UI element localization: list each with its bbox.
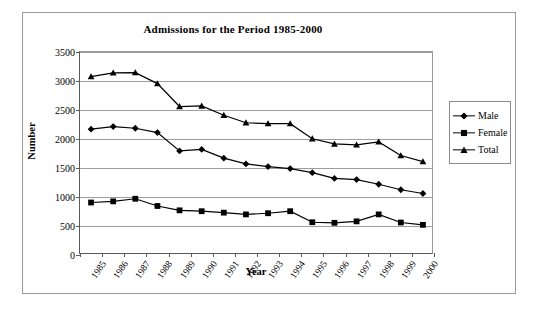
diamond-marker-icon bbox=[453, 110, 475, 122]
series-line bbox=[91, 199, 423, 225]
series-male bbox=[88, 123, 427, 197]
chart-title: Admissions for the Period 1985-2000 bbox=[23, 23, 443, 35]
legend-item-female[interactable]: Female bbox=[453, 124, 507, 141]
data-point bbox=[397, 152, 404, 158]
data-point bbox=[353, 176, 360, 183]
legend-label: Male bbox=[478, 110, 499, 121]
data-point bbox=[354, 218, 360, 224]
data-point bbox=[221, 210, 227, 216]
series-line bbox=[91, 73, 423, 162]
series-line bbox=[91, 127, 423, 194]
data-point bbox=[309, 135, 316, 141]
y-tick-label: 0 bbox=[70, 250, 75, 261]
square-marker-icon bbox=[453, 127, 475, 139]
data-point bbox=[88, 126, 95, 133]
data-point bbox=[375, 139, 382, 145]
triangle-marker-icon bbox=[453, 144, 475, 156]
data-point bbox=[243, 212, 249, 218]
legend-label: Total bbox=[478, 144, 498, 155]
data-point bbox=[287, 165, 294, 172]
y-tick-label: 1000 bbox=[55, 192, 75, 203]
data-point bbox=[287, 208, 293, 214]
data-point bbox=[199, 208, 205, 214]
data-point bbox=[265, 163, 272, 170]
y-tick-label: 3500 bbox=[55, 47, 75, 58]
series-female bbox=[88, 196, 426, 228]
data-point bbox=[132, 196, 138, 202]
data-point bbox=[420, 190, 427, 197]
y-tick-label: 3000 bbox=[55, 76, 75, 87]
data-point bbox=[155, 203, 161, 209]
legend-item-total[interactable]: Total bbox=[453, 141, 507, 158]
data-point bbox=[110, 123, 117, 130]
series-layer bbox=[80, 52, 434, 255]
data-point bbox=[132, 125, 139, 132]
data-point bbox=[331, 175, 338, 182]
data-point bbox=[332, 220, 338, 226]
data-point bbox=[88, 200, 94, 206]
data-point bbox=[397, 186, 404, 193]
series-total bbox=[88, 69, 427, 164]
data-point bbox=[420, 222, 426, 228]
y-tick-label: 2000 bbox=[55, 134, 75, 145]
data-point bbox=[309, 219, 315, 225]
chart-legend: MaleFemaleTotal bbox=[449, 101, 511, 164]
data-point bbox=[309, 169, 316, 176]
data-point bbox=[220, 112, 227, 118]
y-tick-label: 1500 bbox=[55, 163, 75, 174]
data-point bbox=[110, 198, 116, 204]
data-point bbox=[177, 207, 183, 213]
data-point bbox=[375, 181, 382, 188]
data-point bbox=[243, 161, 250, 168]
data-point bbox=[198, 146, 205, 153]
plot-area: 0500100015002000250030003500 19851986198… bbox=[79, 51, 433, 254]
data-point bbox=[398, 220, 404, 226]
y-tick-label: 2500 bbox=[55, 105, 75, 116]
legend-label: Female bbox=[478, 127, 507, 138]
data-point bbox=[376, 212, 382, 218]
legend-item-male[interactable]: Male bbox=[453, 107, 507, 124]
y-tick-label: 500 bbox=[60, 221, 75, 232]
data-point bbox=[154, 80, 161, 86]
x-tick-mark bbox=[434, 253, 435, 257]
data-point bbox=[265, 210, 271, 216]
chart-frame: Admissions for the Period 1985-2000 Numb… bbox=[22, 12, 516, 294]
data-point bbox=[220, 155, 227, 162]
y-axis-title: Number bbox=[26, 122, 37, 159]
x-axis-title: Year bbox=[79, 266, 433, 277]
